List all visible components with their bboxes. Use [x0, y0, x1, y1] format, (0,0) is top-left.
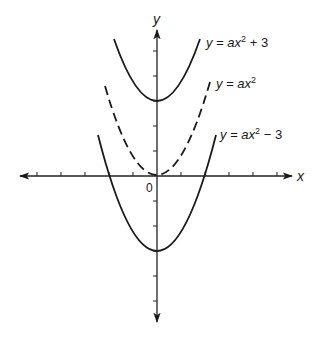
origin-label: 0 — [146, 181, 153, 195]
graph-canvas: y x 0 y = ax2 + 3 y = ax2 y = ax2 − 3 — [0, 0, 319, 351]
y-axis-label: y — [152, 11, 161, 27]
label-y-ax2: y = ax2 — [215, 75, 256, 91]
label-y-ax2-plus-3: y = ax2 + 3 — [205, 34, 268, 50]
parabola-translation-diagram: y x 0 y = ax2 + 3 y = ax2 y = ax2 − 3 — [0, 0, 319, 351]
x-axis-label: x — [296, 168, 305, 184]
label-y-ax2-minus-3: y = ax2 − 3 — [219, 126, 282, 142]
